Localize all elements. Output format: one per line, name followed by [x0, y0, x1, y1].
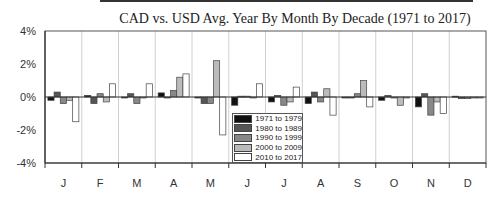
bar — [305, 97, 311, 104]
y-tick-label: -4% — [16, 157, 36, 169]
x-tick-label: D — [464, 177, 472, 189]
y-axis-ticks: 4%2%0%-2%-4% — [16, 25, 36, 169]
y-tick-label: 4% — [20, 25, 36, 37]
bar — [109, 84, 115, 97]
bar — [256, 84, 262, 97]
bar — [177, 77, 183, 97]
legend-label: 1971 to 1979 — [255, 114, 302, 123]
bar — [440, 97, 446, 114]
bar — [324, 89, 330, 97]
legend-item: 2010 to 2017 — [233, 152, 302, 162]
legend: 1971 to 19791980 to 19891990 to 19992000… — [232, 113, 303, 163]
x-tick-label: N — [427, 177, 435, 189]
bar — [201, 97, 207, 104]
y-tick-label: 0% — [20, 91, 36, 103]
bar — [318, 97, 324, 102]
bar — [158, 93, 164, 97]
legend-swatch — [234, 115, 252, 123]
legend-swatch — [234, 153, 252, 161]
legend-label: 1990 to 1999 — [255, 133, 302, 142]
x-tick-label: J — [281, 177, 287, 189]
bar — [428, 97, 434, 115]
legend-item: 2000 to 2009 — [233, 143, 302, 153]
x-tick-label: J — [244, 177, 250, 189]
bar — [434, 97, 440, 102]
bar — [146, 84, 152, 97]
bar — [60, 97, 66, 104]
x-tick-label: J — [61, 177, 67, 189]
legend-swatch — [234, 144, 252, 152]
bar — [220, 97, 226, 135]
x-tick-label: M — [206, 177, 215, 189]
bar — [232, 97, 238, 105]
bar — [415, 97, 421, 107]
bar — [330, 97, 336, 115]
bar — [213, 61, 219, 97]
legend-label: 2000 to 2009 — [255, 143, 302, 152]
bar — [293, 87, 299, 97]
bar — [171, 90, 177, 97]
legend-item: 1971 to 1979 — [233, 114, 302, 124]
legend-swatch — [234, 134, 252, 142]
bar — [103, 97, 109, 102]
legend-item: 1980 to 1989 — [233, 124, 302, 134]
bar — [54, 92, 60, 97]
bar — [311, 92, 317, 97]
y-tick-label: -2% — [16, 124, 36, 136]
bar — [134, 97, 140, 104]
bar — [360, 81, 366, 98]
x-tick-label: A — [170, 177, 178, 189]
y-tick-label: 2% — [20, 58, 36, 70]
x-tick-label: M — [132, 177, 141, 189]
bar — [367, 97, 373, 107]
bar — [287, 97, 293, 102]
x-tick-label: F — [97, 177, 104, 189]
x-axis-ticks: JFMAMJJASOND — [61, 177, 472, 189]
x-tick-label: A — [317, 177, 325, 189]
bar — [73, 97, 79, 122]
bar — [281, 97, 287, 105]
legend-label: 2010 to 2017 — [255, 153, 302, 162]
bar — [268, 97, 274, 102]
x-tick-label: O — [390, 177, 399, 189]
bar — [91, 97, 97, 104]
bar — [397, 97, 403, 105]
legend-item: 1990 to 1999 — [233, 133, 302, 143]
x-tick-label: S — [354, 177, 361, 189]
legend-label: 1980 to 1989 — [255, 124, 302, 133]
bar — [207, 97, 213, 104]
legend-swatch — [234, 124, 252, 132]
bar-chart: 4%2%0%-2%-4% JFMAMJJASOND — [0, 0, 498, 197]
bar — [183, 74, 189, 97]
